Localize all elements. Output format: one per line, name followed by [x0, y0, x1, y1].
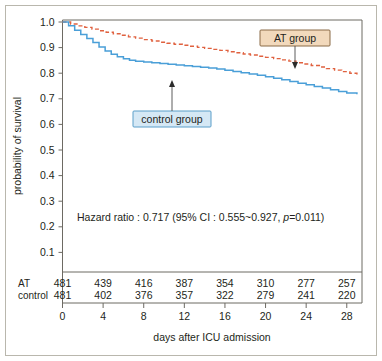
- y-tick-label: 0.6: [40, 118, 55, 130]
- risk-row-label: AT: [18, 278, 30, 289]
- risk-cell: 277: [297, 277, 315, 289]
- risk-cell: 279: [257, 289, 275, 301]
- risk-cell: 220: [338, 289, 356, 301]
- at-group-callout-label: AT group: [274, 32, 316, 44]
- x-tick-label: 12: [178, 310, 190, 322]
- y-tick-label: 0.9: [40, 41, 55, 53]
- risk-cell: 416: [135, 277, 153, 289]
- y-tick-label: 1.0: [40, 16, 55, 28]
- control-group-arrow-icon: [169, 80, 175, 87]
- risk-cell: 322: [216, 289, 234, 301]
- x-tick-label: 4: [100, 310, 106, 322]
- y-tick-label: 0.4: [40, 169, 55, 181]
- plot-axes: [63, 20, 363, 303]
- hazard-ratio-annotation: Hazard ratio : 0.717 (95% CI : 0.555~0.9…: [77, 211, 324, 223]
- kaplan-meier-plot: 1.00.90.80.70.60.50.40.30.20.1 048121620…: [0, 0, 382, 361]
- risk-cell: 402: [94, 289, 112, 301]
- risk-cell: 481: [54, 289, 72, 301]
- y-tick-label: 0.3: [40, 195, 55, 207]
- risk-cell: 257: [338, 277, 356, 289]
- hazard-ratio-main-text: Hazard ratio : 0.717 (95% CI : 0.555~0.9…: [77, 211, 283, 223]
- y-tick-label: 0.7: [40, 92, 55, 104]
- x-tick-label: 28: [341, 310, 353, 322]
- x-tick-label: 0: [60, 310, 66, 322]
- x-tick-label: 24: [300, 310, 312, 322]
- x-tick-label: 16: [219, 310, 231, 322]
- risk-cell: 481: [54, 277, 72, 289]
- risk-cell: 376: [135, 289, 153, 301]
- control-group-callout-label: control group: [141, 113, 202, 125]
- x-tick-label: 20: [260, 310, 272, 322]
- risk-cell: 357: [176, 289, 194, 301]
- hazard-ratio-p-value: =0.011): [289, 211, 324, 223]
- y-tick-label: 0.1: [40, 246, 55, 258]
- risk-row-label: control: [18, 290, 48, 301]
- y-tick-label: 0.8: [40, 67, 55, 79]
- risk-cell: 387: [176, 277, 194, 289]
- x-tick-label: 8: [141, 310, 147, 322]
- at-group-callout: AT group: [260, 30, 330, 69]
- survival-curve-figure: 1.00.90.80.70.60.50.40.30.20.1 048121620…: [0, 0, 382, 361]
- numbers-at-risk-table: AT481439416387354310277257control4814023…: [18, 277, 356, 301]
- control-group-callout: control group: [133, 80, 211, 127]
- y-axis-title: probability of survival: [11, 97, 23, 195]
- y-tick-label: 0.2: [40, 220, 55, 232]
- risk-cell: 354: [216, 277, 234, 289]
- y-axis-ticks: 1.00.90.80.70.60.50.40.30.20.1: [40, 16, 63, 258]
- risk-cell: 310: [257, 277, 275, 289]
- risk-cell: 241: [297, 289, 315, 301]
- x-axis-ticks: 0481216202428: [60, 303, 353, 322]
- at-group-arrow-icon: [292, 62, 298, 69]
- y-tick-label: 0.5: [40, 144, 55, 156]
- risk-cell: 439: [94, 277, 112, 289]
- x-axis-title: days after ICU admission: [153, 331, 270, 343]
